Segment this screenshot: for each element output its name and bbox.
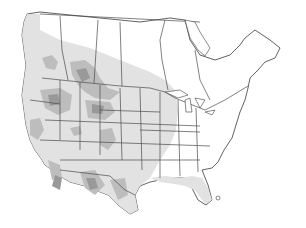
range-map (0, 0, 306, 228)
location-marker (216, 196, 220, 200)
range-light-gulf (150, 176, 212, 204)
